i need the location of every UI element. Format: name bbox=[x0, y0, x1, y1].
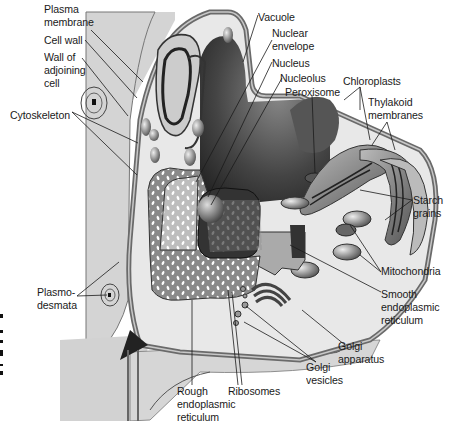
nucleus bbox=[198, 188, 262, 258]
label-chloroplasts: Chloroplasts bbox=[343, 75, 401, 88]
edge-marks bbox=[0, 314, 3, 375]
label-plasmodesmata: Plasmo- desmata bbox=[37, 286, 77, 312]
label-thylakoid-membranes: Thylakoid membranes bbox=[368, 96, 423, 122]
label-golgi-apparatus: Golgi apparatus bbox=[338, 340, 384, 366]
label-nuclear-envelope: Nuclear envelope bbox=[272, 27, 314, 53]
label-starch-grains: Starch grains bbox=[413, 194, 443, 220]
label-smooth-er: Smooth endoplasmic reticulum bbox=[381, 288, 439, 327]
label-rough-er: Rough endoplasmic reticulum bbox=[177, 385, 235, 421]
label-ribosomes: Ribosomes bbox=[228, 385, 280, 398]
label-vacuole: Vacuole bbox=[258, 11, 295, 24]
label-cytoskeleton: Cytoskeleton bbox=[10, 109, 70, 122]
label-cell-wall: Cell wall bbox=[44, 34, 83, 47]
label-mitochondria: Mitochondria bbox=[381, 265, 440, 278]
label-nucleolus: Nucleolus bbox=[280, 72, 326, 85]
nucleolus bbox=[198, 195, 224, 223]
label-wall-of-adjoining-cell: Wall of adjoining cell bbox=[44, 51, 86, 90]
label-nucleus: Nucleus bbox=[272, 57, 310, 70]
label-peroxisome: Peroxisome bbox=[285, 86, 340, 99]
label-plasma-membrane: Plasma membrane bbox=[44, 3, 94, 29]
label-golgi-vesicles: Golgi vesicles bbox=[306, 361, 343, 387]
